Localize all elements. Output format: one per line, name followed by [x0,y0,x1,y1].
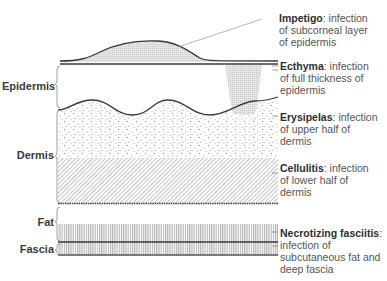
annotation-erysipelas: Erysipelas: infection of upper half of d… [280,111,378,147]
term-necrotizing-fasciitis: Necrotizing fasciitis [280,227,379,239]
sep: : [379,227,382,239]
ecthyma-lesion [225,65,262,115]
term-erysipelas: Erysipelas [280,111,333,123]
annotation-ecthyma: Ecthyma: infection of full thickness of … [280,60,369,96]
annotation-cellulitis: Cellulitis: infection of lower half of d… [280,162,369,198]
desc-line: infection of [280,239,382,251]
term-cellulitis: Cellulitis [280,162,324,174]
dermis-lower-region [58,158,278,203]
desc-line: dermis [280,135,378,147]
layer-label-fascia: Fascia [2,243,54,255]
desc-line: subcutaneous fat and [280,251,382,263]
desc-line: of subcorneal layer [279,24,368,36]
desc-line: deep fascia [280,263,382,275]
desc-line: of full thickness of [280,72,369,84]
desc-line: of epidermis [279,36,368,48]
impetigo-lesion [60,19,278,64]
subcutaneous-fat-region [58,224,278,255]
layer-label-dermis: Dermis [2,149,54,161]
desc-line: infection [335,111,377,123]
desc-line: infection [326,12,368,24]
layer-label-fat: Fat [2,216,54,228]
desc-line: epidermis [280,84,369,96]
desc-line: infection [327,162,369,174]
desc-line: infection [327,60,369,72]
annotation-impetigo: Impetigo: infection of subcorneal layer … [279,12,368,48]
term-impetigo: Impetigo [279,12,323,24]
desc-line: of upper half of [280,123,378,135]
layer-label-epidermis: Epidermis [2,80,54,92]
desc-line: of lower half of [280,174,369,186]
desc-line: dermis [280,186,369,198]
annotation-necrotizing-fasciitis: Necrotizing fasciitis: infection of subc… [280,227,382,275]
term-ecthyma: Ecthyma [280,60,324,72]
